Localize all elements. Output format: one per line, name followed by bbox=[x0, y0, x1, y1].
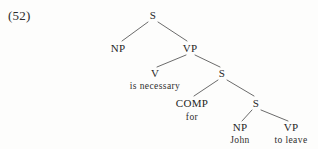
tree-node-s-embed1: S bbox=[219, 67, 225, 79]
tree-edge-s-embed1-to-comp bbox=[194, 80, 218, 96]
tree-edge-s-embed2-to-np-john bbox=[242, 110, 252, 121]
tree-node-vp-leave: VP bbox=[284, 121, 299, 133]
tree-edge-s-embed2-to-vp-leave bbox=[261, 110, 288, 121]
tree-node-s-root: S bbox=[150, 9, 156, 21]
tree-edge-vp-main-to-v-main bbox=[157, 55, 186, 67]
tree-terminal-comp-word: for bbox=[186, 112, 198, 122]
tree-node-np-john: NP bbox=[233, 121, 248, 133]
tree-edge-s-embed1-to-s-embed2 bbox=[227, 80, 254, 96]
tree-terminal-np-john-word: John bbox=[230, 135, 250, 145]
syntax-tree-figure: (52) SNPVPVSCOMPSNPVP is necessaryforJoh… bbox=[0, 0, 318, 149]
tree-terminal-vp-leave-word: to leave bbox=[274, 135, 307, 145]
tree-edge-s-root-to-np-subj bbox=[122, 22, 148, 41]
tree-node-np-subj: NP bbox=[111, 42, 126, 54]
tree-terminal-v-main-word: is necessary bbox=[130, 81, 180, 91]
tree-edge-vp-main-to-s-embed1 bbox=[195, 55, 220, 67]
tree-node-v-main: V bbox=[151, 67, 159, 79]
tree-node-vp-main: VP bbox=[183, 42, 198, 54]
tree-node-comp: COMP bbox=[176, 97, 208, 109]
tree-node-s-embed2: S bbox=[253, 97, 259, 109]
tree-edge-s-root-to-vp-main bbox=[158, 22, 187, 41]
